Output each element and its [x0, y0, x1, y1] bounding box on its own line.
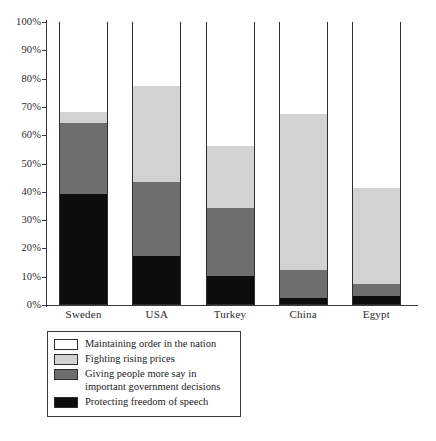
- bar-label-egypt: Egypt: [334, 308, 419, 321]
- bar-segment: [353, 21, 400, 188]
- bar-segment: [280, 114, 327, 270]
- bar-segment: [207, 208, 254, 276]
- y-axis-tick-label: 10%: [1, 272, 41, 282]
- legend-label: Fighting rising prices: [85, 353, 175, 366]
- bar-segment: [353, 296, 400, 304]
- legend-swatch-icon: [54, 354, 78, 365]
- bar-segment: [133, 182, 180, 256]
- bar-segment: [280, 21, 327, 114]
- y-axis-tick-label: 30%: [1, 215, 41, 225]
- legend-swatch-icon: [54, 397, 78, 408]
- bar-sweden[interactable]: [59, 22, 108, 305]
- legend-label-line1: Giving people more say in: [85, 368, 220, 381]
- y-axis-tick-label: 60%: [1, 130, 41, 140]
- bar-outline: [352, 22, 401, 305]
- bar-segment: [207, 276, 254, 304]
- legend-item[interactable]: Protecting freedom of speech: [54, 396, 208, 409]
- bar-segment: [280, 270, 327, 298]
- y-axis-tick-label: 40%: [1, 187, 41, 197]
- bar-turkey[interactable]: [206, 22, 255, 305]
- bar-segment: [207, 146, 254, 208]
- y-axis-tick-label: 80%: [1, 74, 41, 84]
- y-axis-tick-label: 100%: [1, 17, 41, 27]
- y-axis-tick-label: 20%: [1, 243, 41, 253]
- bar-segment: [280, 298, 327, 304]
- bar-outline: [279, 22, 328, 305]
- legend-swatch-icon: [54, 369, 78, 380]
- bar-segment: [60, 194, 107, 304]
- legend-label: Protecting freedom of speech: [85, 396, 208, 409]
- legend-item[interactable]: Giving people more say inimportant gover…: [54, 368, 220, 393]
- legend-label: Maintaining order in the nation: [85, 338, 216, 351]
- bar-usa[interactable]: [132, 22, 181, 305]
- legend-label: Giving people more say inimportant gover…: [85, 368, 220, 393]
- legend-swatch-icon: [54, 339, 78, 350]
- chart-legend: Maintaining order in the nationFighting …: [47, 331, 241, 417]
- plot-area: [47, 22, 413, 305]
- bar-china[interactable]: [279, 22, 328, 305]
- bar-outline: [59, 22, 108, 305]
- y-axis-tick-label: 90%: [1, 45, 41, 55]
- stacked-bar-chart: 100%90%80%70%60%50%40%30%20%10%0% Sweden…: [0, 0, 436, 441]
- bar-segment: [133, 21, 180, 86]
- legend-item[interactable]: Fighting rising prices: [54, 353, 175, 366]
- bar-segment: [353, 188, 400, 284]
- bar-outline: [132, 22, 181, 305]
- legend-label-line2: important government decisions: [85, 381, 220, 394]
- legend-item[interactable]: Maintaining order in the nation: [54, 338, 216, 351]
- bar-segment: [353, 284, 400, 295]
- bar-segment: [207, 21, 254, 146]
- bar-outline: [206, 22, 255, 305]
- bar-segment: [60, 112, 107, 123]
- y-axis-tick-label: 0%: [1, 300, 41, 310]
- y-axis-tick: [42, 305, 47, 306]
- y-axis-tick-label: 50%: [1, 159, 41, 169]
- x-axis-line: [43, 305, 418, 306]
- bar-egypt[interactable]: [352, 22, 401, 305]
- y-axis-tick-label: 70%: [1, 102, 41, 112]
- bar-segment: [60, 21, 107, 112]
- bar-segment: [133, 86, 180, 182]
- bar-segment: [60, 123, 107, 194]
- bar-segment: [133, 256, 180, 304]
